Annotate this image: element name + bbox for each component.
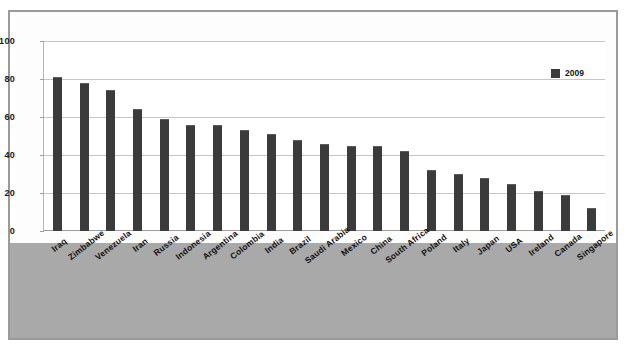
x-axis-label-slot: Canada: [552, 233, 579, 343]
plot-area: 020406080100: [43, 41, 605, 231]
bar[interactable]: [561, 195, 570, 231]
x-axis-label-slot: USA: [498, 233, 525, 343]
bar[interactable]: [320, 144, 329, 231]
chart-container: 020406080100 IraqZimbabweVenezuelaIranRu…: [0, 0, 628, 352]
bar-slot: [472, 41, 499, 231]
x-axis-category-label: India: [262, 235, 285, 256]
x-axis-label-slot: Brazil: [284, 233, 311, 343]
bar-slot: [71, 41, 98, 231]
y-axis-tick-label: 80: [0, 74, 15, 84]
bar[interactable]: [373, 146, 382, 232]
y-axis-tick-label: 0: [0, 226, 15, 236]
x-axis-label-slot: Colombia: [230, 233, 257, 343]
legend-swatch-icon: [551, 69, 560, 78]
bar-slot: [124, 41, 151, 231]
x-axis-label-slot: Russia: [150, 233, 177, 343]
bar-slot: [365, 41, 392, 231]
bar[interactable]: [80, 83, 89, 231]
bar-slot: [498, 41, 525, 231]
bar-slot: [44, 41, 71, 231]
x-axis-category-label: USA: [504, 235, 525, 254]
x-axis-label-slot: Iraq: [43, 233, 70, 343]
x-axis-label-slot: Mexico: [337, 233, 364, 343]
bar-slot: [97, 41, 124, 231]
bar[interactable]: [240, 130, 249, 231]
x-axis-label-slot: Saudi Arabia: [311, 233, 338, 343]
x-axis-labels: IraqZimbabweVenezuelaIranRussiaIndonesia…: [43, 233, 605, 343]
bar-slot: [258, 41, 285, 231]
bar[interactable]: [133, 109, 142, 231]
bar[interactable]: [400, 151, 409, 231]
x-axis-label-slot: Ireland: [525, 233, 552, 343]
legend-label: 2009: [565, 68, 584, 78]
bar[interactable]: [293, 140, 302, 231]
x-axis-category-label: Iran: [130, 236, 149, 254]
x-axis-label-slot: China: [364, 233, 391, 343]
bar-group: [44, 41, 605, 231]
x-axis-category-label: Iraq: [50, 236, 69, 254]
x-axis-label-slot: India: [257, 233, 284, 343]
bar[interactable]: [427, 170, 436, 231]
y-axis-tick-label: 40: [0, 150, 15, 160]
x-axis-label-slot: Italy: [444, 233, 471, 343]
bar[interactable]: [186, 125, 195, 231]
bar[interactable]: [347, 146, 356, 232]
chart-legend: 2009: [551, 68, 584, 78]
bar-slot: [231, 41, 258, 231]
x-axis-category-label: Japan: [475, 233, 501, 257]
x-axis-category-label: Italy: [451, 235, 471, 254]
x-axis-label-slot: Indonesia: [177, 233, 204, 343]
x-axis-label-slot: South Africa: [391, 233, 418, 343]
bar-slot: [204, 41, 231, 231]
bar[interactable]: [534, 191, 543, 231]
bar-slot: [151, 41, 178, 231]
bar-slot: [391, 41, 418, 231]
bar[interactable]: [53, 77, 62, 231]
bar[interactable]: [480, 178, 489, 231]
bar-slot: [178, 41, 205, 231]
x-axis-label-slot: Iran: [123, 233, 150, 343]
bar[interactable]: [160, 119, 169, 231]
bar[interactable]: [587, 208, 596, 231]
bar-slot: [338, 41, 365, 231]
bar[interactable]: [213, 125, 222, 231]
bar-slot: [445, 41, 472, 231]
x-axis-label-slot: Zimbabwe: [70, 233, 97, 343]
x-axis-label-slot: Venezuela: [97, 233, 124, 343]
x-axis-label-slot: Poland: [418, 233, 445, 343]
x-axis-label-slot: Argentina: [204, 233, 231, 343]
y-axis-tick-label: 20: [0, 188, 15, 198]
x-axis-label-slot: Japan: [471, 233, 498, 343]
bar-slot: [525, 41, 552, 231]
y-axis-tick-label: 60: [0, 112, 15, 122]
bar[interactable]: [454, 174, 463, 231]
x-axis-label-slot: Singapore: [578, 233, 605, 343]
y-axis-tick-mark: [40, 231, 44, 232]
bar[interactable]: [267, 134, 276, 231]
y-axis-tick-label: 100: [0, 36, 15, 46]
bar-slot: [311, 41, 338, 231]
bar[interactable]: [507, 184, 516, 232]
bar-slot: [284, 41, 311, 231]
bar[interactable]: [106, 90, 115, 231]
bar-slot: [418, 41, 445, 231]
